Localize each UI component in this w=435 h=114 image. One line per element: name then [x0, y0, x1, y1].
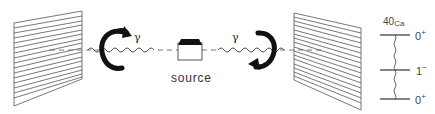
left-circular-arrow-icon [102, 26, 132, 68]
level-label-top: 0+ [415, 28, 426, 42]
level-label-middle: 1− [416, 63, 427, 77]
mass-number: 40 [383, 16, 394, 27]
transition-wave-upper [394, 35, 396, 70]
photon-left-label: γ [134, 31, 141, 44]
right-polarizer-plate [294, 13, 361, 110]
level-scheme [380, 35, 410, 99]
transition-wave-lower [394, 70, 396, 99]
left-polarizer-plate [14, 11, 82, 106]
source-label: source [171, 71, 212, 85]
photon-right-label: γ [232, 31, 239, 44]
level-label-bottom: 0+ [415, 92, 426, 106]
diagram-canvas [0, 0, 435, 114]
level-parity: + [421, 28, 426, 37]
level-parity: − [422, 63, 427, 72]
nucleus-label: 40Ca [383, 16, 404, 28]
source-box-icon [178, 39, 202, 60]
element-symbol: Ca [394, 19, 404, 28]
level-parity: + [421, 92, 426, 101]
